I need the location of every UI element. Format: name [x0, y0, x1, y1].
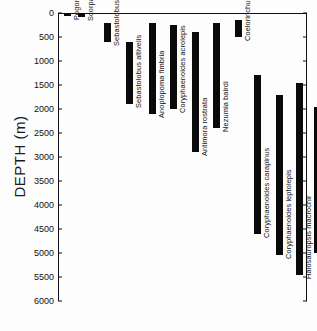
- species-label: Halosauropsis macrochir: [304, 195, 313, 279]
- y-tick-label: 1000: [34, 56, 54, 66]
- y-tick-label: 6000: [34, 296, 54, 306]
- species-label: Coryphaenoides acrolepis: [178, 25, 187, 113]
- species-label: Coryphaenoides carapinus: [262, 147, 271, 237]
- species-label: Anoplopoma fimbria: [157, 50, 166, 118]
- y-axis-tick-labels: 0500100015002000250030003500400045005000…: [18, 0, 54, 331]
- y-tick-label: 3000: [34, 152, 54, 162]
- species-label: Sebastolobus alascanus: [112, 0, 121, 46]
- depth-range-bar: [64, 13, 71, 16]
- species-label: Scorpaena guttata: [86, 0, 95, 21]
- y-tick-label: 5000: [34, 248, 54, 258]
- depth-range-chart: DEPTH (m) 050010001500200025003000350040…: [0, 0, 317, 331]
- y-tick-label: 4000: [34, 200, 54, 210]
- species-label: Pogonoperca brachygramma: [72, 0, 81, 20]
- y-tick-label: 5500: [34, 272, 54, 282]
- species-label: Coelorinchus carminatus: [243, 0, 252, 41]
- y-tick-label: 500: [39, 32, 54, 42]
- y-tick-label: 2000: [34, 104, 54, 114]
- depth-range-bar: [170, 25, 177, 109]
- depth-range-bar: [104, 23, 111, 42]
- species-label: Sebastolobus altivelis: [134, 35, 143, 108]
- depth-range-bar: [126, 42, 133, 104]
- depth-range-bar: [213, 23, 220, 129]
- species-label: Coryphaenoides leptolepis: [284, 170, 293, 260]
- species-label: Nezumia bairdi: [221, 81, 230, 132]
- depth-range-bar: [235, 20, 242, 37]
- y-tick-label: 1500: [34, 80, 54, 90]
- depth-range-bar: [276, 95, 283, 256]
- y-tick-label: 4500: [34, 224, 54, 234]
- plot-bars-container: Pogonoperca brachygrammaScorpaena guttat…: [58, 13, 307, 301]
- y-tick-label: 2500: [34, 128, 54, 138]
- depth-range-bar: [78, 13, 85, 17]
- depth-range-bar: [254, 75, 261, 233]
- species-label: Antimora rostrata: [200, 98, 209, 156]
- y-tick-label: 3500: [34, 176, 54, 186]
- y-tick-label: 0: [49, 8, 54, 18]
- depth-range-bar: [314, 107, 317, 253]
- depth-range-bar: [296, 83, 303, 275]
- depth-range-bar: [149, 23, 156, 114]
- depth-range-bar: [192, 32, 199, 152]
